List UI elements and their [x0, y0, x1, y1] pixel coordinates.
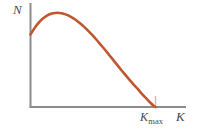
kmax-subscript: max: [148, 116, 163, 126]
population-vs-carrying-capacity-figure: N K Kmax: [0, 0, 197, 134]
plot-canvas: [0, 0, 197, 134]
x-axis-label: K: [176, 110, 185, 123]
population-curve: [31, 13, 156, 107]
kmax-tick-label: Kmax: [140, 111, 163, 123]
y-axis-label: N: [13, 3, 22, 16]
kmax-base-letter: K: [140, 110, 148, 124]
